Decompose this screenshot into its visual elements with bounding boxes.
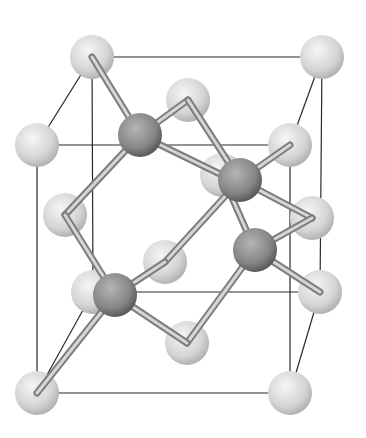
atom-front-top-left	[15, 123, 59, 167]
atom-back-top-right	[300, 35, 344, 79]
atom-tetra-4	[93, 273, 137, 317]
atom-front-bottom-right	[268, 371, 312, 415]
atom-tetra-1	[118, 113, 162, 157]
atom-tetra-3	[233, 228, 277, 272]
crystal-lattice-diagram	[0, 0, 366, 438]
atom-tetra-2	[218, 158, 262, 202]
cell-edge	[320, 57, 322, 292]
tetrahedral-atoms	[93, 113, 277, 317]
